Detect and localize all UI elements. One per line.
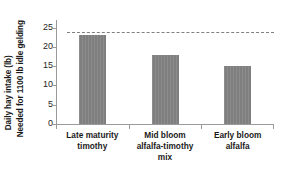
x-axis-category-label-line: timothy (56, 141, 129, 152)
bar-chart: Daily hay intake (lb) Needed for 1100 lb… (0, 0, 286, 176)
y-axis-tick-label: 20 (33, 42, 53, 51)
x-axis-category-label-line: Late maturity (56, 130, 129, 141)
x-axis-category-labels: Late maturitytimothy Mid bloomalfalfa-ti… (56, 130, 274, 176)
x-axis-tick (56, 125, 57, 129)
x-axis-category-label-line: Mid bloom (129, 130, 202, 141)
x-axis-category-label-line: alfalfa (201, 141, 274, 152)
y-axis-tick (52, 66, 56, 67)
x-axis-category-label-line: mix (129, 152, 202, 163)
requirement-reference-line (67, 32, 274, 33)
y-axis-title: Daily hay intake (lb) Needed for 1100 lb… (0, 0, 34, 140)
y-axis-title-line-1: Daily hay intake (lb) (5, 55, 13, 130)
y-axis-tick (52, 47, 56, 48)
x-axis-tick (129, 125, 130, 129)
x-axis-tick (201, 125, 202, 129)
x-axis-category-label-line: Early bloom (201, 130, 274, 141)
bar-late-maturity-timothy (79, 35, 106, 124)
y-axis-title-line-2: Needed for 1100 lb idle gelding (17, 20, 25, 137)
y-axis-tick-label: 10 (33, 80, 53, 89)
y-axis-tick-label: 15 (33, 61, 53, 70)
y-axis-tick-label: 0 (33, 119, 53, 128)
y-axis-tick-label: 25 (33, 23, 53, 32)
y-axis-tick-label: 5 (33, 100, 53, 109)
plot-area (56, 20, 274, 125)
x-axis-category-label: Late maturitytimothy (56, 130, 129, 152)
x-axis-category-label: Mid bloomalfalfa-timothymix (129, 130, 202, 163)
bar-early-bloom-alfalfa (224, 66, 251, 124)
x-axis-category-label: Early bloomalfalfa (201, 130, 274, 152)
x-axis-category-label-line: alfalfa-timothy (129, 141, 202, 152)
y-axis-tick-labels: 0 5 10 15 20 25 (33, 0, 53, 176)
bar-mid-bloom-alfalfa-timothy-mix (152, 55, 179, 124)
y-axis-tick (52, 85, 56, 86)
y-axis-line (56, 20, 57, 125)
y-axis-tick (52, 28, 56, 29)
y-axis-tick (52, 105, 56, 106)
x-axis-tick (273, 125, 274, 129)
x-axis-line (56, 124, 274, 125)
